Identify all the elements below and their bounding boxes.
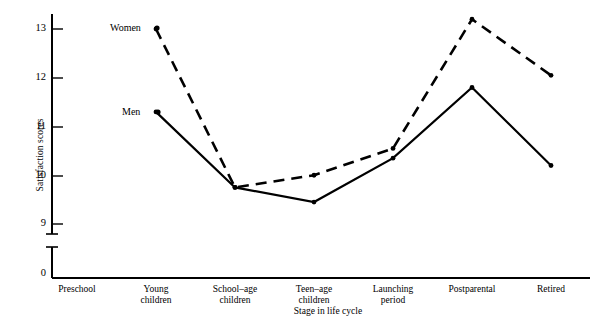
chart-plot-area — [0, 0, 598, 324]
data-point — [549, 73, 554, 78]
satisfaction-life-cycle-line-chart: Satisfaction scores 13 12 11 10 9 0 Wome… — [0, 0, 598, 324]
data-point — [549, 163, 554, 168]
data-point — [391, 156, 396, 161]
series-line-men — [156, 88, 551, 203]
data-point — [312, 173, 317, 178]
series-points-women — [154, 17, 554, 190]
data-point — [233, 185, 238, 190]
data-point — [470, 17, 475, 22]
series-label-dot-men — [155, 109, 160, 114]
series-line-women — [156, 19, 551, 187]
data-point — [391, 146, 396, 151]
series-label-dot-women — [154, 25, 159, 30]
data-point — [312, 200, 317, 205]
data-point — [470, 85, 475, 90]
